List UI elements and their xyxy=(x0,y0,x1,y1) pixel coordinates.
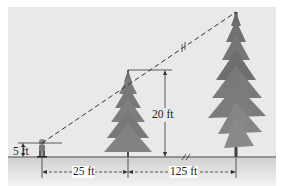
label-small-tree-height: 20 ft xyxy=(152,108,173,122)
label-distance-25ft: 25 ft xyxy=(72,166,95,178)
diagram-svg xyxy=(0,0,288,186)
diagram: 5 ft 20 ft 25 ft 125 ft xyxy=(0,0,288,186)
label-person-height: 5 ft xyxy=(13,146,29,158)
label-distance-125ft: 125 ft xyxy=(169,166,198,178)
